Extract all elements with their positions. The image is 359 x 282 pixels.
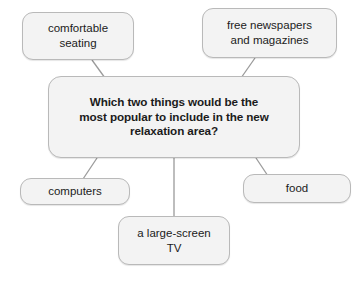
node-comfortable-seating[interactable]: comfortable seating xyxy=(22,12,134,60)
node-computers[interactable]: computers xyxy=(20,178,130,205)
node-central-question-label: Which two things would be the most popul… xyxy=(73,95,274,140)
node-large-screen-tv[interactable]: a large-screen TV xyxy=(118,216,230,265)
diagram-canvas: comfortable seating free newspapers and … xyxy=(0,0,359,282)
node-free-newspapers-label: free newspapers and magazines xyxy=(221,18,318,47)
connector-newspapers-to-central xyxy=(241,58,255,78)
connector-central-to-computers xyxy=(83,158,97,179)
node-computers-label: computers xyxy=(42,184,108,199)
node-food-label: food xyxy=(280,181,314,196)
node-comfortable-seating-label: comfortable seating xyxy=(42,21,114,50)
node-free-newspapers[interactable]: free newspapers and magazines xyxy=(202,8,337,58)
node-central-question[interactable]: Which two things would be the most popul… xyxy=(48,76,300,158)
node-food[interactable]: food xyxy=(243,174,351,203)
node-large-screen-tv-label: a large-screen TV xyxy=(131,226,217,255)
